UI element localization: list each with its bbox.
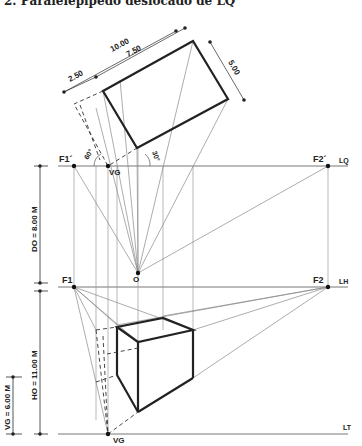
perspective-drawing: 10.00 7.50 2.50 5.00 60° 30° D — [0, 0, 362, 446]
ho-dimension: HO = 11.00 M — [30, 350, 39, 400]
rays-from-o — [74, 41, 328, 273]
label-f1: F1 — [62, 275, 73, 285]
label-o: O — [133, 275, 139, 284]
label-vg-lower: VG — [113, 436, 125, 445]
do-dimension: DO = 8.00 M — [30, 206, 39, 252]
label-lh: LH — [339, 278, 348, 285]
rays-from-vanishing-points — [74, 287, 328, 434]
label-lq: LQ — [339, 157, 349, 165]
dim-2-50: 2.50 — [67, 68, 85, 84]
label-vg-upper: VG — [109, 168, 121, 177]
parallelepiped — [117, 318, 193, 412]
plan-rectangle — [103, 41, 228, 148]
angle-60: 60° — [83, 148, 94, 161]
dimension-dots — [62, 26, 246, 102]
vertical-construction-lines — [74, 148, 328, 434]
label-f1-prime: F1´ — [59, 154, 73, 164]
label-f2-prime: F2´ — [313, 154, 327, 164]
reference-lines — [58, 166, 348, 434]
vg-dimension: VG = 6.00 M — [3, 385, 12, 430]
scale-bars — [6, 166, 48, 434]
angle-30: 30° — [151, 150, 161, 163]
dimension-lines — [64, 28, 244, 100]
label-lt: LT — [343, 424, 352, 431]
label-f2: F2 — [313, 275, 324, 285]
